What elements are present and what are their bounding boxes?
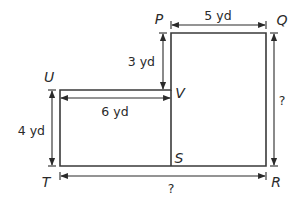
label-pq: 5 yd — [204, 8, 231, 23]
label-uv: 6 yd — [101, 104, 128, 119]
dimension-tr: ? — [60, 172, 266, 196]
label-pv: 3 yd — [128, 54, 155, 69]
label-qr: ? — [279, 93, 286, 108]
vertex-t-label: T — [42, 174, 52, 190]
vertex-u-label: U — [44, 69, 54, 85]
l-shaped-figure-diagram: 5 yd 3 yd 6 yd 4 yd ? ? P Q R S T U — [0, 0, 300, 203]
label-ut: 4 yd — [18, 123, 45, 138]
vertex-labels: P Q R S T U V — [42, 11, 288, 190]
vertex-q-label: Q — [276, 12, 287, 28]
dimension-qr: ? — [270, 33, 285, 166]
dimension-pq: 5 yd — [171, 8, 266, 29]
vertex-p-label: P — [155, 11, 164, 27]
vertex-s-label: S — [175, 150, 184, 166]
vertex-v-label: V — [175, 85, 186, 101]
dimension-ut: 4 yd — [18, 90, 56, 166]
dimension-pv: 3 yd — [128, 33, 167, 89]
label-tr: ? — [168, 181, 175, 196]
vertex-r-label: R — [271, 174, 281, 190]
dimension-uv: 6 yd — [61, 98, 170, 119]
